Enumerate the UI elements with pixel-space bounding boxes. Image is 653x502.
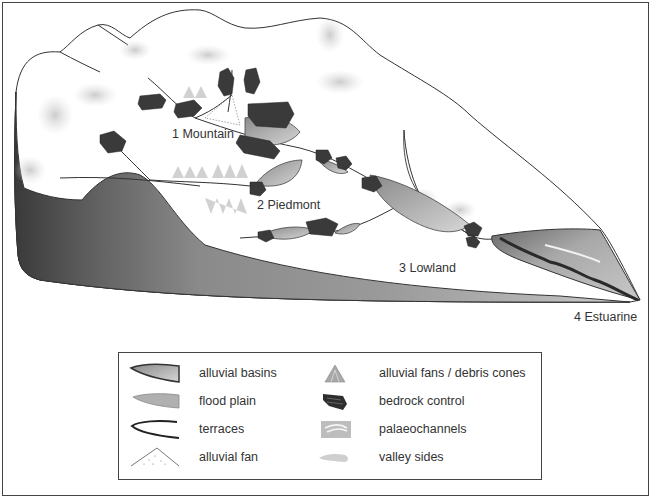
zone-label-estuarine: 4 Estuarine — [574, 310, 637, 324]
legend-label: alluvial fans / debris cones — [379, 366, 526, 380]
palaeochannels-icon — [309, 418, 361, 440]
zone-label-mountain: 1 Mountain — [172, 127, 234, 141]
legend-item-alluvial-fan: alluvial fan — [129, 445, 258, 469]
legend-item-palaeochannels: palaeochannels — [309, 417, 467, 441]
legend-item-terraces: terraces — [129, 417, 244, 441]
valley-sides-icon — [309, 446, 361, 468]
legend-label: valley sides — [379, 450, 444, 464]
terraces-icon — [129, 418, 181, 440]
legend-item-alluvial-basins: alluvial basins — [129, 361, 277, 385]
legend-item-flood-plain: flood plain — [129, 389, 256, 413]
legend-label: alluvial basins — [199, 366, 277, 380]
alluvial-basins-icon — [129, 362, 181, 384]
legend: alluvial basins flood plain terraces all… — [118, 352, 542, 480]
legend-label: flood plain — [199, 394, 256, 408]
legend-label: palaeochannels — [379, 422, 467, 436]
alluvial-fans-debris-cones-icon — [309, 362, 361, 384]
legend-item-bedrock-control: bedrock control — [309, 389, 464, 413]
legend-label: terraces — [199, 422, 244, 436]
legend-label: alluvial fan — [199, 450, 258, 464]
flood-plain-icon — [129, 390, 181, 412]
zone-label-piedmont: 2 Piedmont — [257, 198, 320, 212]
legend-item-alluvial-fans-debris-cones: alluvial fans / debris cones — [309, 361, 526, 385]
legend-label: bedrock control — [379, 394, 464, 408]
alluvial-fan-icon — [129, 446, 181, 468]
zone-label-lowland: 3 Lowland — [399, 261, 456, 275]
bedrock-control-icon — [309, 390, 361, 412]
legend-item-valley-sides: valley sides — [309, 445, 444, 469]
